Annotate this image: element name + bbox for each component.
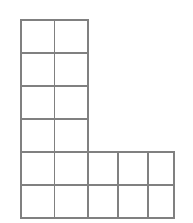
grid-cell [118,152,148,185]
grid-cell [54,20,87,53]
grid-cell [54,86,87,119]
grid-cell [54,152,87,185]
grid-cell [88,185,118,218]
grid-cell [21,20,54,53]
grid-cell [21,185,54,218]
grid-cell [21,119,54,152]
grid-cell [21,152,54,185]
l-shape-grid [0,0,193,223]
figure-canvas [0,0,193,223]
grid-cell [118,185,148,218]
grid-cell [88,152,118,185]
grid-cell [148,185,174,218]
grid-cell [21,86,54,119]
grid-cell [54,119,87,152]
grid-cell [21,53,54,86]
grid-cell [54,185,87,218]
grid-cell [148,152,174,185]
grid-cell [54,53,87,86]
